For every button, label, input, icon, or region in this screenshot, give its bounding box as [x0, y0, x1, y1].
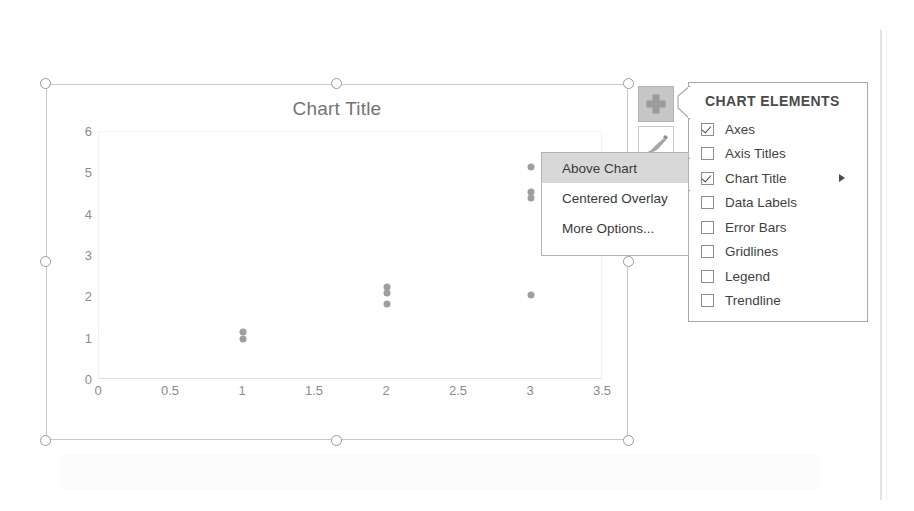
- checkbox-unchecked-icon[interactable]: [701, 196, 714, 209]
- chart-elements-list: AxesAxis TitlesChart TitleData LabelsErr…: [701, 117, 859, 313]
- y-tick-label: 0: [68, 372, 92, 387]
- plot-wrapper: 0123456 00.511.522.533.5: [68, 131, 608, 403]
- x-tick-label: 1.5: [305, 383, 323, 398]
- checkbox-unchecked-icon[interactable]: [701, 245, 714, 258]
- chart-element-row-gridlines[interactable]: Gridlines: [701, 240, 859, 265]
- chart-element-row-legend[interactable]: Legend: [701, 264, 859, 289]
- x-tick-label: 0.5: [161, 383, 179, 398]
- scatter-point[interactable]: [528, 292, 535, 299]
- chart-element-label: Legend: [725, 269, 770, 284]
- y-tick-label: 1: [68, 330, 92, 345]
- plus-icon: [647, 95, 666, 114]
- chart-element-row-data-labels[interactable]: Data Labels: [701, 191, 859, 216]
- menu-item-label: More Options...: [562, 221, 654, 236]
- screenshot-canvas: Chart Title 0123456 00.511.522.533.5 CHA…: [0, 0, 914, 511]
- chart-element-row-axes[interactable]: Axes: [701, 117, 859, 142]
- chart-element-label: Gridlines: [725, 244, 778, 259]
- panel-heading: CHART ELEMENTS: [705, 93, 840, 109]
- x-tick-label: 1: [238, 383, 245, 398]
- checkbox-unchecked-icon[interactable]: [701, 270, 714, 283]
- scatter-point[interactable]: [528, 195, 535, 202]
- checkbox-unchecked-icon[interactable]: [701, 294, 714, 307]
- chart-title[interactable]: Chart Title: [46, 98, 628, 120]
- y-tick-label: 3: [68, 248, 92, 263]
- chart-element-label: Chart Title: [725, 171, 787, 186]
- selection-handle-top-center[interactable]: [331, 78, 342, 89]
- x-tick-label: 3: [526, 383, 533, 398]
- selection-handle-top-right[interactable]: [623, 78, 634, 89]
- chart-element-label: Axis Titles: [725, 146, 786, 161]
- y-tick-label: 2: [68, 289, 92, 304]
- menu-item-label: Above Chart: [562, 161, 637, 176]
- y-tick-label: 4: [68, 206, 92, 221]
- selection-handle-bottom-right[interactable]: [623, 435, 634, 446]
- x-tick-label: 3.5: [593, 383, 611, 398]
- checkbox-checked-icon[interactable]: [701, 123, 714, 136]
- chart-element-row-trendline[interactable]: Trendline: [701, 289, 859, 314]
- menu-item-centered-overlay[interactable]: Centered Overlay: [542, 183, 688, 213]
- selection-handle-bottom-left[interactable]: [40, 435, 51, 446]
- selection-handle-middle-right[interactable]: [623, 256, 634, 267]
- chart-elements-plus-button[interactable]: [638, 86, 674, 122]
- scatter-point[interactable]: [528, 164, 535, 171]
- menu-item-label: Centered Overlay: [562, 191, 668, 206]
- chart-elements-panel[interactable]: CHART ELEMENTS AxesAxis TitlesChart Titl…: [688, 82, 868, 322]
- chart-element-label: Trendline: [725, 293, 781, 308]
- chart-element-row-error-bars[interactable]: Error Bars: [701, 215, 859, 240]
- x-tick-label: 0: [94, 383, 101, 398]
- chart-object[interactable]: Chart Title 0123456 00.511.522.533.5: [46, 84, 628, 440]
- scan-artifact-line: [886, 30, 887, 500]
- callout-notch-plus: [676, 86, 692, 120]
- checkbox-unchecked-icon[interactable]: [701, 147, 714, 160]
- selection-handle-bottom-center[interactable]: [331, 435, 342, 446]
- y-tick-label: 5: [68, 165, 92, 180]
- x-tick-label: 2.5: [449, 383, 467, 398]
- scatter-point[interactable]: [384, 300, 391, 307]
- x-tick-label: 2: [382, 383, 389, 398]
- menu-item-more-options[interactable]: More Options...: [542, 213, 688, 243]
- scatter-point[interactable]: [240, 335, 247, 342]
- menu-item-above-chart[interactable]: Above Chart: [542, 153, 688, 183]
- chart-element-label: Data Labels: [725, 195, 797, 210]
- chart-element-row-chart-title[interactable]: Chart Title: [701, 166, 859, 191]
- scan-artifact-line: [880, 30, 882, 500]
- chart-title-submenu[interactable]: Above ChartCentered OverlayMore Options.…: [541, 152, 689, 256]
- checkbox-unchecked-icon[interactable]: [701, 221, 714, 234]
- selection-handle-top-left[interactable]: [40, 78, 51, 89]
- scatter-point[interactable]: [384, 290, 391, 297]
- chart-element-label: Error Bars: [725, 220, 787, 235]
- chevron-right-icon[interactable]: [839, 174, 845, 182]
- x-axis[interactable]: 00.511.522.533.5: [98, 383, 602, 405]
- scan-artifact-smudge: [60, 455, 820, 489]
- chart-element-row-axis-titles[interactable]: Axis Titles: [701, 142, 859, 167]
- y-axis[interactable]: 0123456: [68, 131, 92, 379]
- checkbox-checked-icon[interactable]: [701, 172, 714, 185]
- selection-handle-middle-left[interactable]: [40, 256, 51, 267]
- chart-element-label: Axes: [725, 122, 755, 137]
- plot-area[interactable]: [98, 131, 602, 379]
- y-tick-label: 6: [68, 124, 92, 139]
